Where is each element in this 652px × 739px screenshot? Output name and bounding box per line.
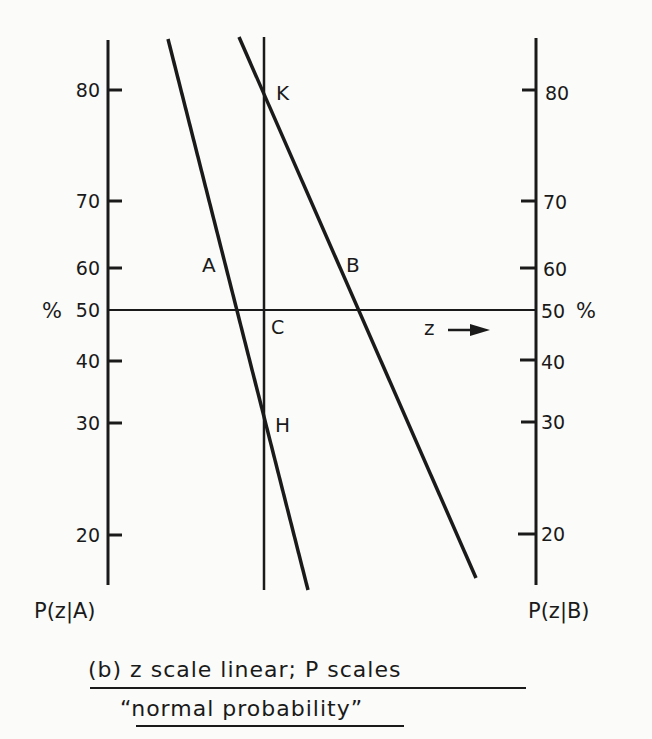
line-b xyxy=(239,37,476,578)
left-tick-70: 70 xyxy=(76,190,100,212)
left-tick-20: 20 xyxy=(76,524,100,546)
caption-line-2: “normal probability” xyxy=(120,696,363,721)
left-tick-50: 50 xyxy=(76,299,100,321)
diagram-canvas: 80 70 60 50 40 30 20 % 80 70 60 50 40 30… xyxy=(0,0,652,739)
percent-right: % xyxy=(576,299,596,323)
point-label-c: C xyxy=(271,316,284,338)
right-ticks xyxy=(518,90,536,534)
line-a xyxy=(168,39,308,590)
left-tick-60: 60 xyxy=(76,257,100,279)
left-tick-30: 30 xyxy=(76,412,100,434)
right-tick-70: 70 xyxy=(543,191,567,213)
right-tick-20: 20 xyxy=(541,523,565,545)
left-tick-40: 40 xyxy=(76,350,100,372)
z-label: z xyxy=(424,316,435,340)
left-axis-label: P(z|A) xyxy=(34,599,96,624)
right-tick-30: 30 xyxy=(541,411,565,433)
right-tick-50: 50 xyxy=(541,300,565,322)
caption-line-1: (b) z scale linear; P scales xyxy=(88,657,401,682)
left-ticks xyxy=(108,90,122,535)
right-tick-40: 40 xyxy=(541,351,565,373)
left-tick-80: 80 xyxy=(76,79,100,101)
point-label-a: A xyxy=(202,253,216,277)
point-label-h: H xyxy=(275,413,290,437)
right-tick-60: 60 xyxy=(543,258,567,280)
percent-left: % xyxy=(42,299,62,323)
right-tick-80: 80 xyxy=(545,82,569,104)
point-label-k: K xyxy=(276,81,290,105)
point-label-b: B xyxy=(346,253,360,277)
z-arrow-icon xyxy=(448,324,490,336)
right-axis-label: P(z|B) xyxy=(528,599,590,624)
